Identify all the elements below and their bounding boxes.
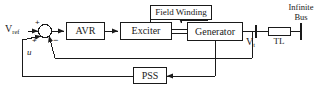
sum-sign-minus-text: − xyxy=(53,35,58,45)
tl-element-box xyxy=(268,27,290,36)
vt-label-subscript: t xyxy=(253,41,255,48)
exciter-block[interactable]: Exciter xyxy=(120,22,172,40)
exciter-block-label: Exciter xyxy=(132,26,161,36)
avr-block[interactable]: AVR xyxy=(66,22,105,40)
tl-label: TL xyxy=(268,37,290,46)
vt-label: Vt xyxy=(246,37,255,47)
sum-sign-top-plus-text: + xyxy=(35,18,40,27)
pss-block-label: PSS xyxy=(142,71,159,81)
summing-junction-icon xyxy=(39,25,52,38)
sum-sign-top-plus: + xyxy=(35,19,40,27)
field-winding-block-label: Field Winding xyxy=(155,8,207,17)
generator-block-label: Generator xyxy=(195,27,235,37)
u-label-text: u xyxy=(27,47,32,57)
block-diagram-canvas: AVR Exciter Generator Field Winding PSS … xyxy=(0,0,315,95)
vref-label-subscript: ref xyxy=(12,28,19,35)
tl-label-text: TL xyxy=(274,36,285,46)
sum-sign-minus: − xyxy=(53,36,58,45)
infinite-bus-label: Infinite Bus xyxy=(272,3,315,23)
avr-block-label: AVR xyxy=(76,26,96,36)
infinite-bus-label-line2: Bus xyxy=(272,13,315,23)
sum-sign-bottom-plus-text: + xyxy=(32,36,37,45)
u-label: u xyxy=(27,48,32,57)
field-winding-block[interactable]: Field Winding xyxy=(150,5,212,20)
vref-label: Vref xyxy=(5,24,19,34)
generator-block[interactable]: Generator xyxy=(187,22,243,41)
pss-block[interactable]: PSS xyxy=(133,67,167,84)
sum-sign-bottom-plus: + xyxy=(32,37,37,45)
